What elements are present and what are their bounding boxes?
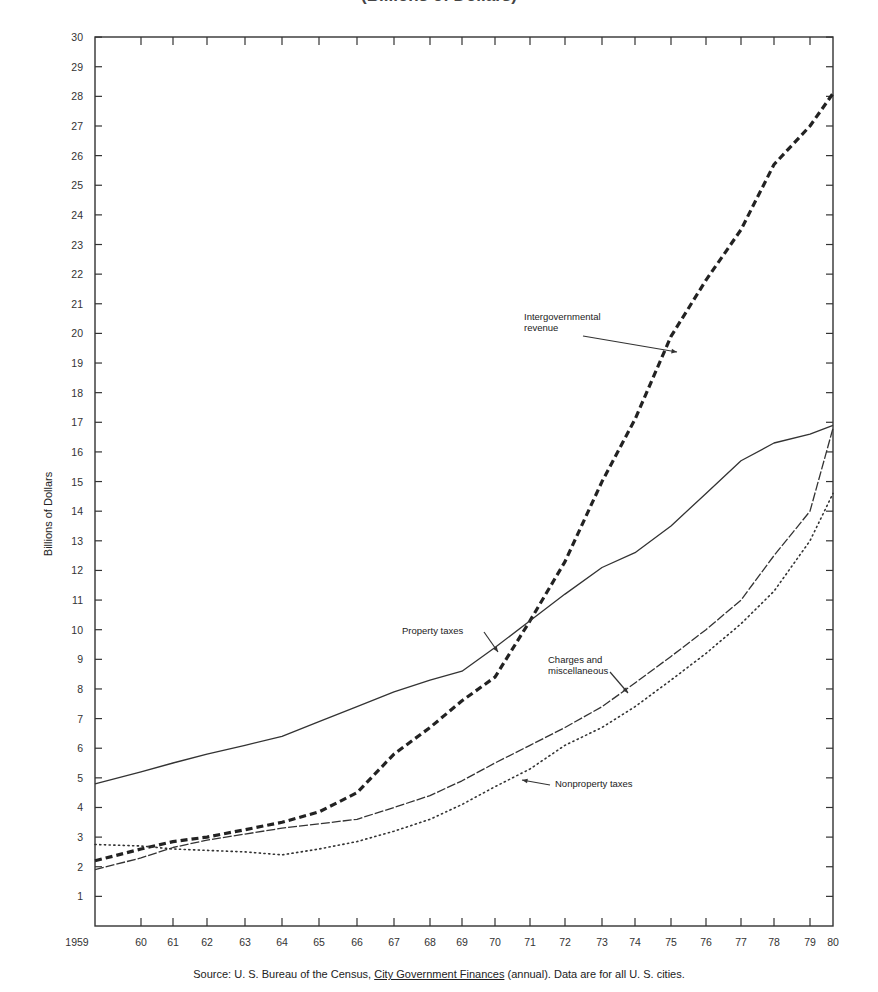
annotation-line: revenue [524, 322, 601, 333]
x-tick-label: 1959 [65, 936, 89, 948]
x-tick-label: 67 [388, 936, 400, 948]
arrowhead-icon [671, 349, 677, 354]
annotation-line: miscellaneous [548, 665, 608, 676]
annotation-nonproperty-taxes: Nonproperty taxes [555, 778, 633, 789]
annotation-charges: Charges and miscellaneous [548, 654, 608, 676]
y-tick-label: 1 [77, 890, 83, 902]
y-tick-label: 8 [77, 683, 83, 695]
y-tick-label: 22 [71, 268, 83, 280]
y-tick-label: 24 [71, 209, 83, 221]
y-tick-label: 21 [71, 298, 83, 310]
series-intergovernmental-revenue [95, 93, 833, 860]
x-tick-label: 80 [827, 936, 839, 948]
y-tick-label: 15 [71, 476, 83, 488]
x-tick-label: 64 [276, 936, 288, 948]
y-tick-label: 25 [71, 179, 83, 191]
x-tick-label: 79 [804, 936, 816, 948]
plot-frame [95, 37, 833, 926]
y-tick-label: 11 [72, 594, 83, 606]
annotation-line: Intergovernmental [524, 311, 601, 322]
x-tick-label: 69 [456, 936, 468, 948]
y-tick-label: 27 [71, 120, 83, 132]
x-tick-label: 63 [239, 936, 251, 948]
x-tick-label: 78 [768, 936, 780, 948]
y-tick-label: 29 [71, 61, 83, 73]
annotation-property-taxes: Property taxes [402, 625, 463, 636]
y-tick-label: 3 [77, 831, 83, 843]
y-tick-label: 28 [71, 90, 83, 102]
annotation-arrow [583, 336, 677, 352]
source-publication: City Government Finances [374, 968, 504, 980]
y-tick-label: 26 [71, 150, 83, 162]
y-tick-label: 17 [71, 416, 83, 428]
x-tick-label: 73 [596, 936, 608, 948]
arrowhead-icon [522, 779, 528, 784]
y-tick-label: 2 [77, 861, 83, 873]
y-tick-label: 10 [71, 624, 83, 636]
x-tick-label: 61 [167, 936, 179, 948]
source-note: Source: U. S. Bureau of the Census, City… [0, 968, 878, 980]
y-tick-label: 30 [71, 31, 83, 43]
x-tick-label: 71 [524, 936, 536, 948]
x-tick-label: 66 [351, 936, 363, 948]
y-tick-label: 9 [77, 653, 83, 665]
y-tick-label: 5 [77, 772, 83, 784]
x-tick-label: 60 [135, 936, 147, 948]
source-prefix: Source: U. S. Bureau of the Census, [193, 968, 374, 980]
y-tick-label: 4 [77, 801, 83, 813]
line-chart: 1234567891011121314151617181920212223242… [0, 0, 878, 992]
y-tick-label: 7 [77, 713, 83, 725]
source-suffix: (annual). Data are for all U. S. cities. [504, 968, 684, 980]
y-tick-label: 6 [77, 742, 83, 754]
x-tick-label: 62 [201, 936, 213, 948]
y-tick-label: 13 [71, 535, 83, 547]
y-tick-label: 19 [71, 357, 83, 369]
y-tick-label: 16 [71, 446, 83, 458]
series-nonproperty-taxes [95, 493, 833, 855]
annotation-line: Charges and [548, 654, 608, 665]
axes [95, 37, 833, 926]
annotation-intergovernmental: Intergovernmental revenue [524, 311, 601, 333]
series-property-taxes [95, 425, 833, 784]
annotation-arrows [484, 336, 677, 785]
x-tick-label: 70 [489, 936, 501, 948]
series-lines [95, 93, 833, 869]
x-tick-label: 75 [665, 936, 677, 948]
y-axis-label: Billions of Dollars [42, 464, 54, 564]
x-tick-label: 72 [559, 936, 571, 948]
x-tick-label: 74 [629, 936, 641, 948]
x-tick-label: 68 [424, 936, 436, 948]
y-tick-label: 18 [71, 387, 83, 399]
y-tick-label: 20 [71, 327, 83, 339]
tick-labels: 1234567891011121314151617181920212223242… [65, 31, 839, 948]
x-tick-label: 65 [313, 936, 325, 948]
x-tick-label: 77 [735, 936, 747, 948]
x-tick-label: 76 [700, 936, 712, 948]
y-tick-label: 12 [71, 564, 83, 576]
y-tick-label: 14 [71, 505, 83, 517]
y-tick-label: 23 [71, 239, 83, 251]
